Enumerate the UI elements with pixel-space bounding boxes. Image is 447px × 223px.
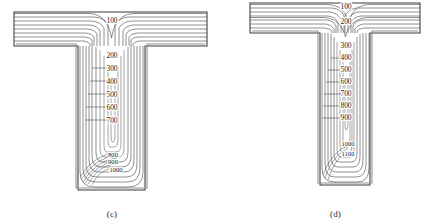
contour-label-d-300: 300	[340, 41, 351, 50]
contour-200-d	[250, 18, 420, 38]
contour-ticks-c	[85, 68, 108, 120]
contour-label-c-400: 400	[106, 77, 117, 86]
panel-c: 100 200 300 400 500 600 700 800 900 1000…	[0, 0, 224, 223]
panel-caption-d: (d)	[224, 209, 447, 219]
t-section-inner-edge-d	[252, 31, 418, 183]
contour-label-d-700: 700	[340, 89, 351, 98]
contour-label-d-600: 600	[340, 77, 351, 86]
contours-flange-left-c	[14, 17, 108, 46]
contours-flange-right-c	[115, 17, 207, 46]
contour-label-d-1100: 1100	[342, 150, 356, 157]
contour-label-d-900: 900	[340, 113, 351, 122]
contour-label-c-500: 500	[106, 90, 117, 99]
figure-contour-pair: 100 200 300 400 500 600 700 800 900 1000…	[0, 0, 447, 223]
contours-flange-left-d	[250, 8, 344, 33]
contour-plot-c: 100 200 300 400 500 600 700 800 900 1000	[0, 0, 224, 200]
contour-label-c-600: 600	[106, 103, 117, 112]
contour-label-c-900: 900	[108, 158, 119, 165]
panel-caption-c: (c)	[0, 209, 224, 219]
contour-label-c-800: 800	[108, 151, 119, 158]
contour-label-d-1000: 1000	[341, 140, 355, 147]
contour-label-d-500: 500	[340, 65, 351, 74]
contour-label-c-300: 300	[106, 64, 117, 73]
contour-label-d-200: 200	[340, 17, 351, 26]
contour-label-d-800: 800	[340, 101, 351, 110]
contour-label-c-200: 200	[106, 51, 117, 60]
contour-label-d-100: 100	[340, 2, 351, 11]
contour-plot-d: 100 200 300 400 500 600 700 800 900 1000…	[224, 0, 447, 200]
panel-d: 100 200 300 400 500 600 700 800 900 1000…	[224, 0, 447, 223]
contour-label-d-400: 400	[340, 53, 351, 62]
contour-label-c-100: 100	[106, 16, 117, 25]
contour-label-c-700: 700	[106, 116, 117, 125]
contour-label-c-1000: 1000	[109, 166, 123, 173]
